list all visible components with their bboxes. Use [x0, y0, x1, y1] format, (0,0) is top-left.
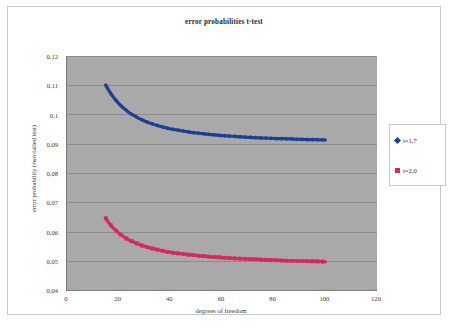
plot-area	[66, 56, 377, 291]
x-axis-tick-label: 120	[371, 295, 381, 302]
data-point-square	[145, 245, 148, 248]
chart-page: error probabilities t-test 0,040,050,060…	[0, 0, 449, 330]
data-point-square	[104, 217, 107, 220]
series-2	[104, 217, 325, 264]
data-point-square	[254, 258, 257, 261]
data-point-square	[140, 244, 143, 247]
data-point-square	[213, 255, 216, 258]
y-axis-tick-label: 0,04	[46, 287, 58, 294]
y-axis-tick-label: 0,12	[46, 53, 58, 60]
data-point-square	[233, 257, 236, 260]
data-point-square	[249, 257, 252, 260]
data-point-square	[166, 250, 169, 253]
y-axis-tick-label: 0,06	[46, 228, 58, 235]
data-point-square	[120, 233, 123, 236]
chart-frame: error probabilities t-test 0,040,050,060…	[7, 6, 441, 315]
data-point-square	[306, 260, 309, 263]
legend-item-t-2-0[interactable]: t=2,0	[395, 167, 417, 174]
data-point-square	[228, 256, 231, 259]
data-point-square	[207, 255, 210, 258]
legend-item-label: t=1,7	[403, 137, 417, 144]
x-axis-tick-label: 100	[319, 295, 329, 302]
data-point-square	[223, 256, 226, 259]
legend-marker-diamond-icon	[394, 137, 401, 144]
y-axis-tick-labels: 0,040,050,060,070,080,090,10,110,12	[20, 56, 62, 290]
chart-legend: t=1,7 t=2,0	[389, 124, 446, 186]
data-point-square	[109, 224, 112, 227]
data-point-square	[321, 260, 324, 263]
chart-title: error probabilities t-test	[8, 18, 440, 27]
data-point-square	[161, 249, 164, 252]
legend-item-t-1-7[interactable]: t=1,7	[395, 137, 417, 144]
data-point-square	[114, 229, 117, 232]
data-point-square	[187, 253, 190, 256]
x-axis-tick-labels: 020406080100120	[66, 291, 376, 305]
data-point-square	[275, 259, 278, 262]
data-point-square	[192, 253, 195, 256]
y-axis-title: error probability (two-tailed test)	[30, 99, 37, 239]
data-point-square	[151, 247, 154, 250]
data-point-square	[182, 252, 185, 255]
data-point-square	[290, 259, 293, 262]
data-point-square	[218, 256, 221, 259]
x-axis-title: degrees of freedom	[66, 307, 376, 314]
series-1	[104, 83, 325, 141]
y-axis-tick-label: 0,07	[46, 199, 58, 206]
x-axis-tick-label: 0	[64, 295, 67, 302]
data-point-square	[259, 258, 262, 261]
data-point-square	[197, 254, 200, 257]
data-point-square	[244, 257, 247, 260]
data-point-square	[280, 259, 283, 262]
plot-series-canvas	[67, 56, 377, 290]
data-point-square	[176, 252, 179, 255]
y-axis-tick-label: 0,1	[50, 111, 58, 118]
data-point-square	[135, 242, 138, 245]
data-point-square	[130, 239, 133, 242]
data-point-square	[238, 257, 241, 260]
y-axis-tick-label: 0,05	[46, 257, 58, 264]
data-point-square	[300, 259, 303, 262]
legend-item-label: t=2,0	[403, 167, 417, 174]
data-point-square	[125, 237, 128, 240]
series-line	[106, 85, 326, 140]
data-point-square	[264, 258, 267, 261]
legend-marker-square-icon	[395, 168, 400, 173]
data-point-square	[316, 260, 319, 263]
data-point-square	[171, 251, 174, 254]
data-point-square	[156, 248, 159, 251]
y-axis-tick-label: 0,08	[46, 170, 58, 177]
x-axis-tick-label: 60	[218, 295, 225, 302]
data-point-square	[202, 254, 205, 257]
data-point-square	[269, 258, 272, 261]
x-axis-tick-label: 40	[166, 295, 173, 302]
data-point-square	[285, 259, 288, 262]
data-point-square	[295, 259, 298, 262]
data-point-square	[311, 260, 314, 263]
x-axis-tick-label: 20	[114, 295, 121, 302]
y-axis-tick-label: 0,09	[46, 140, 58, 147]
x-axis-tick-label: 80	[269, 295, 276, 302]
y-axis-tick-label: 0,11	[47, 82, 58, 89]
